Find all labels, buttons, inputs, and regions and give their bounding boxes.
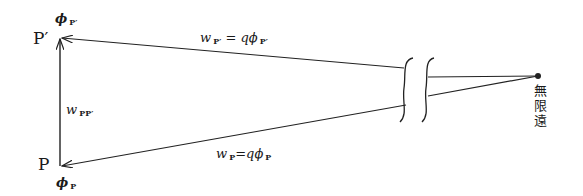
point-label-p: P — [38, 154, 49, 174]
break-mark-right — [422, 58, 434, 122]
point-label-pprime: P′ — [33, 28, 48, 48]
work-label-pp-prime: wPP′ — [66, 99, 93, 118]
lower-segment-infinity — [428, 76, 538, 96]
potential-label-pprime: ϕP′ — [55, 8, 77, 27]
work-label-pprime: wP′ = qϕP′ — [200, 27, 268, 46]
potential-label-p: ϕP — [56, 172, 76, 191]
diagram-canvas: P′ ϕP′ P ϕP wPP′ wP′ = qϕP′ wP=qϕP 無限遠 — [0, 0, 583, 196]
infinity-point — [535, 73, 541, 79]
infinity-label: 無限遠 — [533, 83, 547, 128]
upper-segment-infinity — [428, 76, 538, 77]
diagram-lines — [0, 0, 583, 196]
work-label-p: wP=qϕP — [216, 143, 271, 162]
